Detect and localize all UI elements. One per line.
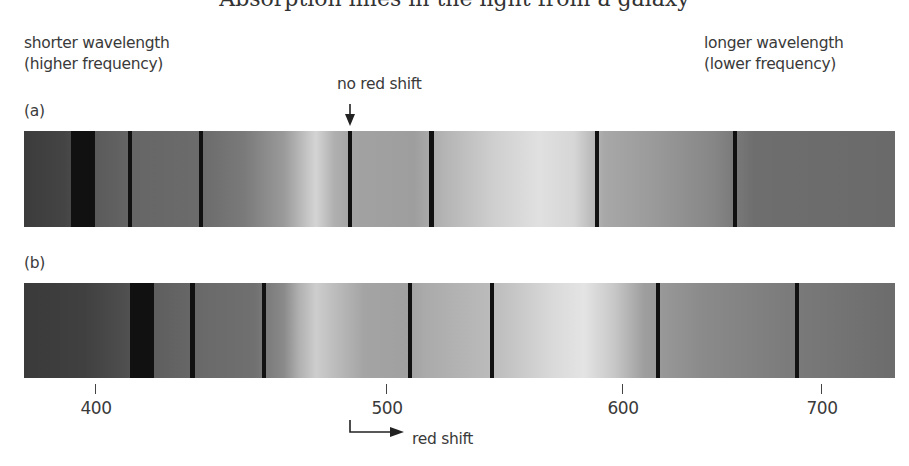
absorption-line bbox=[190, 283, 195, 378]
spectrum-b bbox=[24, 283, 895, 378]
axis-label-700: 700 bbox=[792, 398, 852, 418]
shorter-wavelength-line2: (higher frequency) bbox=[24, 54, 170, 75]
axis-tick-500 bbox=[386, 384, 387, 394]
absorption-line bbox=[408, 283, 412, 378]
down-arrow-icon bbox=[343, 100, 357, 128]
absorption-line bbox=[656, 283, 660, 378]
panel-a-label: (a) bbox=[24, 101, 45, 122]
no-red-shift-label: no red shift bbox=[337, 74, 421, 95]
longer-wavelength-label: longer wavelength (lower frequency) bbox=[704, 33, 843, 75]
panel-b-label: (b) bbox=[24, 253, 45, 274]
absorption-line bbox=[348, 131, 352, 227]
longer-wavelength-line1: longer wavelength bbox=[704, 33, 843, 54]
absorption-line bbox=[733, 131, 737, 227]
axis-tick-400 bbox=[95, 384, 96, 394]
shorter-wavelength-line1: shorter wavelength bbox=[24, 33, 170, 54]
axis-tick-700 bbox=[821, 384, 822, 394]
figure-title-cropped: Absorption lines in the light from a gal… bbox=[0, 0, 909, 11]
axis-label-600: 600 bbox=[593, 398, 653, 418]
axis-label-400: 400 bbox=[66, 398, 126, 418]
absorption-line bbox=[595, 131, 599, 227]
absorption-band bbox=[71, 131, 95, 227]
red-shift-arrow-icon bbox=[348, 418, 408, 438]
axis-tick-600 bbox=[622, 384, 623, 394]
absorption-line bbox=[262, 283, 266, 378]
absorption-line bbox=[795, 283, 799, 378]
absorption-line bbox=[199, 131, 203, 227]
absorption-line bbox=[429, 131, 434, 227]
longer-wavelength-line2: (lower frequency) bbox=[704, 54, 843, 75]
axis-label-500: 500 bbox=[357, 398, 417, 418]
red-shift-label: red shift bbox=[412, 429, 473, 450]
absorption-band bbox=[130, 283, 154, 378]
spectrum-a bbox=[24, 131, 895, 227]
shorter-wavelength-label: shorter wavelength (higher frequency) bbox=[24, 33, 170, 75]
absorption-line bbox=[490, 283, 494, 378]
absorption-line bbox=[128, 131, 132, 227]
